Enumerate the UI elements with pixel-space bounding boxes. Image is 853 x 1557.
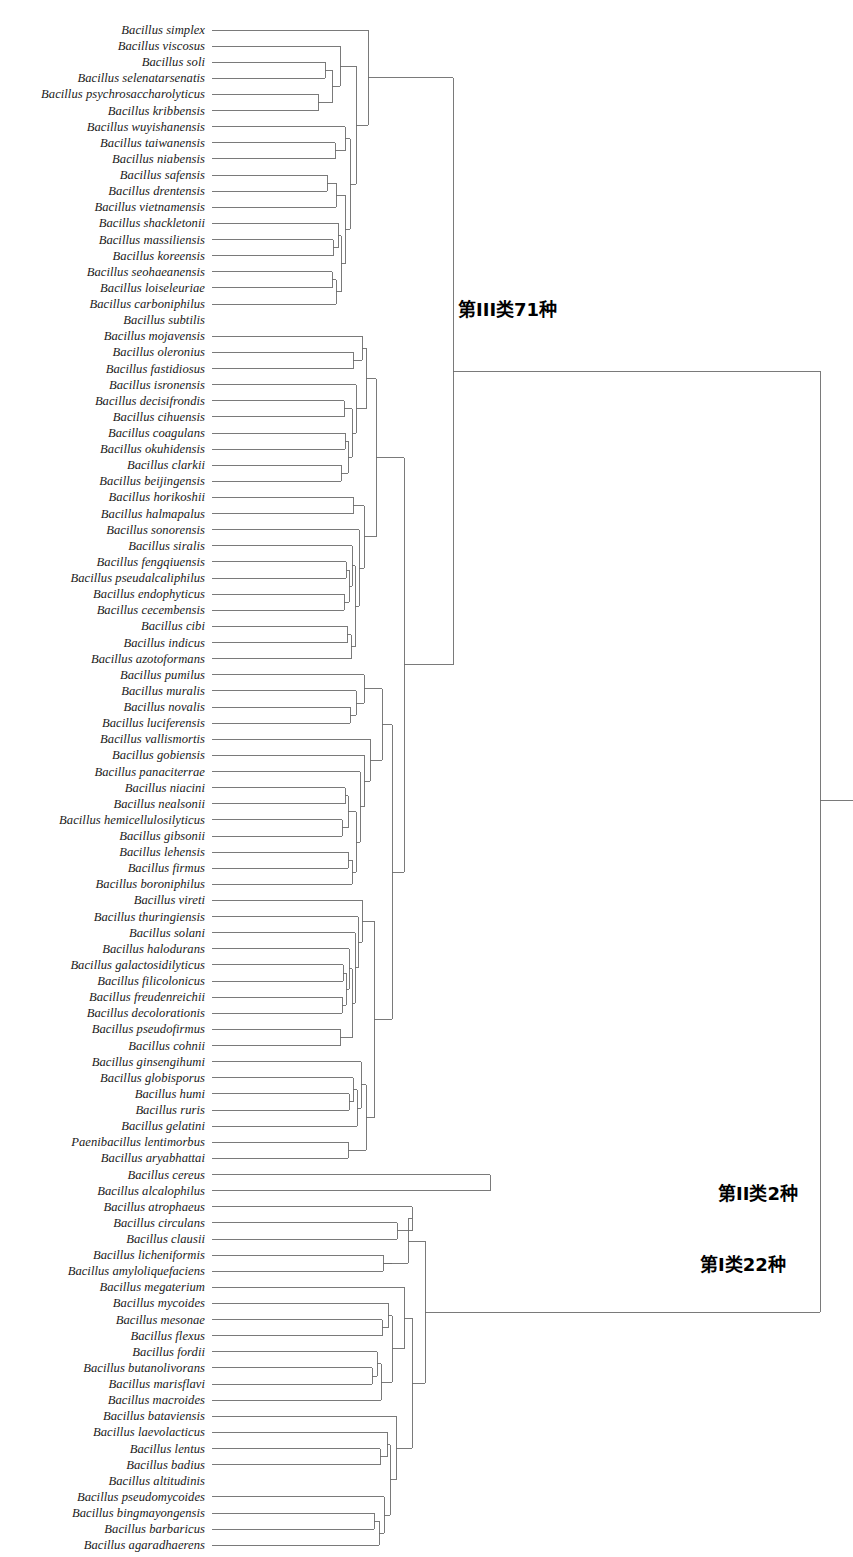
leaf-label: Bacillus endophyticus xyxy=(93,588,205,601)
leaf-label: Bacillus seohaeanensis xyxy=(87,265,205,278)
leaf-label: Bacillus amyloliquefaciens xyxy=(68,1265,205,1278)
leaf-label: Bacillus agaradhaerens xyxy=(84,1539,205,1552)
leaf-label: Bacillus aryabhattai xyxy=(101,1152,205,1165)
leaf-label: Bacillus pseudomycoides xyxy=(77,1490,205,1503)
leaf-label: Bacillus safensis xyxy=(120,169,205,182)
leaf-label: Bacillus isronensis xyxy=(109,378,205,391)
leaf-label: Bacillus vietnamensis xyxy=(94,201,205,214)
leaf-label: Bacillus alcalophilus xyxy=(97,1184,205,1197)
leaf-label: Bacillus decolorationis xyxy=(87,1007,205,1020)
leaf-label: Bacillus wuyishanensis xyxy=(87,120,205,133)
leaf-label: Bacillus globisporus xyxy=(100,1071,205,1084)
leaf-label: Bacillus pseudalcaliphilus xyxy=(70,572,205,585)
leaf-label: Bacillus clausii xyxy=(126,1233,205,1246)
leaf-label: Bacillus indicus xyxy=(123,636,205,649)
leaf-label: Bacillus carboniphilus xyxy=(90,298,206,311)
leaf-label: Bacillus galactosidilyticus xyxy=(70,958,205,971)
leaf-label: Bacillus bataviensis xyxy=(103,1410,205,1423)
leaf-label: Bacillus okuhidensis xyxy=(100,443,205,456)
cluster-group-label: 第III类71种 xyxy=(458,295,557,321)
leaf-label: Bacillus azotoformans xyxy=(91,652,205,665)
leaf-label: Bacillus subtilis xyxy=(123,314,205,327)
leaf-label: Bacillus clarkii xyxy=(127,459,205,472)
leaf-label: Bacillus gibsonii xyxy=(119,830,205,843)
leaf-label: Bacillus freudenreichii xyxy=(89,991,205,1004)
leaf-label: Bacillus butanolivorans xyxy=(83,1361,205,1374)
leaf-label: Bacillus horikoshii xyxy=(109,491,205,504)
leaf-label: Bacillus fordii xyxy=(132,1345,205,1358)
leaf-label: Bacillus pseudofirmus xyxy=(92,1023,205,1036)
leaf-label: Paenibacillus lentimorbus xyxy=(71,1136,205,1149)
leaf-label: Bacillus ruris xyxy=(135,1104,205,1117)
leaf-label: Bacillus taiwanensis xyxy=(100,136,205,149)
leaf-label: Bacillus selenatarsenatis xyxy=(77,72,205,85)
leaf-label: Bacillus cereus xyxy=(127,1168,205,1181)
leaf-label: Bacillus muralis xyxy=(121,684,205,697)
leaf-label: Bacillus koreensis xyxy=(113,249,205,262)
leaf-label: Bacillus atrophaeus xyxy=(103,1200,205,1213)
leaf-label: Bacillus loiseleuriae xyxy=(100,281,205,294)
leaf-label: Bacillus cihuensis xyxy=(113,410,205,423)
leaf-label: Bacillus cohnii xyxy=(128,1039,205,1052)
leaf-label: Bacillus luciferensis xyxy=(102,717,205,730)
leaf-label: Bacillus oleronius xyxy=(113,346,205,359)
leaf-label: Bacillus viscosus xyxy=(118,40,205,53)
leaf-label: Bacillus solani xyxy=(129,926,205,939)
leaf-label: Bacillus drentensis xyxy=(108,185,205,198)
leaf-label-container: Bacillus simplexBacillus viscosusBacillu… xyxy=(0,0,853,1557)
leaf-label: Bacillus beijingensis xyxy=(99,475,205,488)
leaf-label: Bacillus mesonae xyxy=(116,1313,205,1326)
leaf-label: Bacillus megaterium xyxy=(99,1281,205,1294)
leaf-label: Bacillus fengqiuensis xyxy=(97,555,205,568)
leaf-label: Bacillus macroides xyxy=(108,1394,205,1407)
leaf-label: Bacillus ginsengihumi xyxy=(92,1055,205,1068)
cluster-group-label: 第II类2种 xyxy=(718,1179,798,1205)
leaf-label: Bacillus barbaricus xyxy=(104,1523,205,1536)
leaf-label: Bacillus badius xyxy=(126,1458,205,1471)
leaf-label: Bacillus mycoides xyxy=(113,1297,205,1310)
leaf-label: Bacillus niabensis xyxy=(112,152,205,165)
leaf-label: Bacillus firmus xyxy=(128,862,205,875)
leaf-label: Bacillus nealsonii xyxy=(114,797,206,810)
leaf-label: Bacillus niacini xyxy=(125,781,205,794)
leaf-label: Bacillus gobiensis xyxy=(112,749,205,762)
leaf-label: Bacillus bingmayongensis xyxy=(72,1507,205,1520)
leaf-label: Bacillus thuringiensis xyxy=(94,910,205,923)
leaf-label: Bacillus coagulans xyxy=(108,427,205,440)
leaf-label: Bacillus humi xyxy=(135,1087,205,1100)
leaf-label: Bacillus pumilus xyxy=(120,668,205,681)
leaf-label: Bacillus circulans xyxy=(113,1216,205,1229)
leaf-label: Bacillus laevolacticus xyxy=(93,1426,205,1439)
cluster-group-label: 第I类22种 xyxy=(700,1250,786,1276)
leaf-label: Bacillus halodurans xyxy=(102,942,205,955)
leaf-label: Bacillus lentus xyxy=(130,1442,205,1455)
leaf-label: Bacillus cecembensis xyxy=(97,604,205,617)
leaf-label: Bacillus sonorensis xyxy=(106,523,205,536)
leaf-label: Bacillus massiliensis xyxy=(99,233,205,246)
leaf-label: Bacillus siralis xyxy=(128,539,205,552)
leaf-label: Bacillus gelatini xyxy=(121,1120,205,1133)
leaf-label: Bacillus halmapalus xyxy=(101,507,205,520)
leaf-label: Bacillus panaciterrae xyxy=(94,765,205,778)
leaf-label: Bacillus soli xyxy=(142,56,205,69)
leaf-label: Bacillus fastidiosus xyxy=(106,362,205,375)
leaf-label: Bacillus mojavensis xyxy=(104,330,205,343)
leaf-label: Bacillus psychrosaccharolyticus xyxy=(41,88,205,101)
leaf-label: Bacillus hemicellulosilyticus xyxy=(59,813,205,826)
leaf-label: Bacillus novalis xyxy=(123,701,205,714)
leaf-label: Bacillus boroniphilus xyxy=(96,878,205,891)
leaf-label: Bacillus simplex xyxy=(121,24,205,37)
dendrogram-figure: Bacillus simplexBacillus viscosusBacillu… xyxy=(0,0,853,1557)
leaf-label: Bacillus altitudinis xyxy=(108,1474,205,1487)
leaf-label: Bacillus vireti xyxy=(134,894,205,907)
leaf-label: Bacillus vallismortis xyxy=(100,733,205,746)
leaf-label: Bacillus cibi xyxy=(141,620,205,633)
leaf-label: Bacillus marisflavi xyxy=(109,1378,205,1391)
leaf-label: Bacillus kribbensis xyxy=(108,104,205,117)
leaf-label: Bacillus licheniformis xyxy=(93,1249,205,1262)
leaf-label: Bacillus shackletonii xyxy=(99,217,205,230)
leaf-label: Bacillus lehensis xyxy=(119,846,205,859)
leaf-label: Bacillus filicolonicus xyxy=(97,975,205,988)
leaf-label: Bacillus decisifrondis xyxy=(95,394,205,407)
leaf-label: Bacillus flexus xyxy=(130,1329,205,1342)
